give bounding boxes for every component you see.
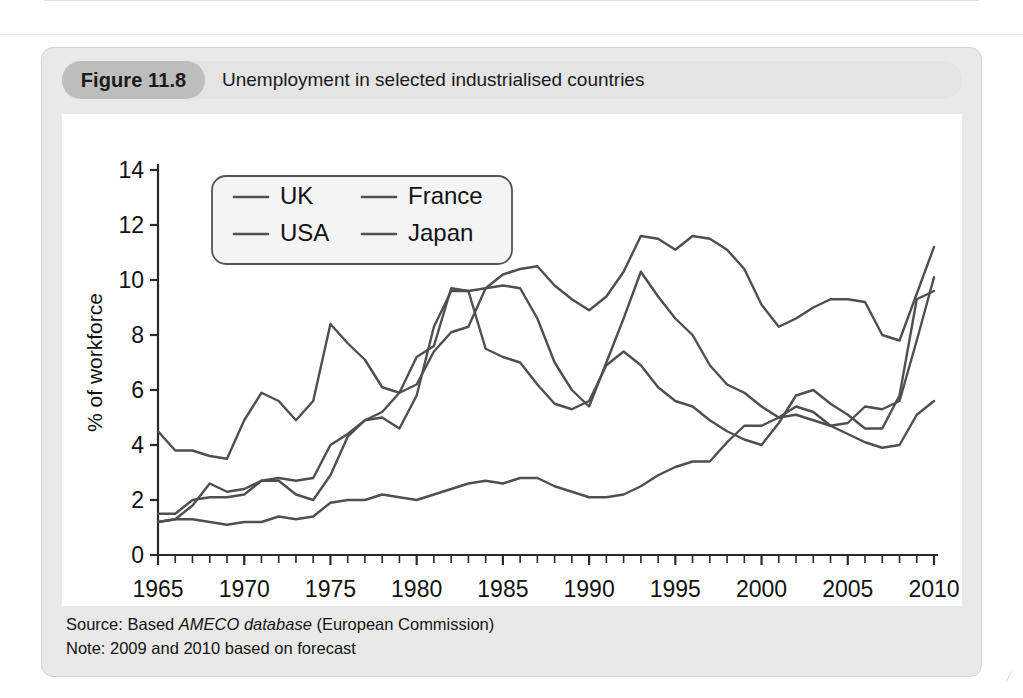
x-tick-label: 2010 — [908, 576, 959, 602]
figure-footer: Source: Based AMECO database (European C… — [66, 613, 946, 661]
y-tick-label: 0 — [131, 542, 144, 568]
y-tick-label: 4 — [131, 432, 144, 458]
legend-label-uk: UK — [280, 182, 313, 209]
legend-label-france: France — [408, 182, 483, 209]
source-prefix: Source: Based — [66, 615, 179, 633]
source-italic: AMECO database — [179, 615, 312, 633]
x-tick-label: 1965 — [132, 576, 183, 602]
legend-label-usa: USA — [280, 219, 329, 246]
figure-note-line: Note: 2009 and 2010 based on forecast — [66, 637, 946, 661]
y-axis-title: % of workforce — [83, 293, 106, 432]
x-tick-label: 1995 — [650, 576, 701, 602]
page-edge-rule — [44, 0, 979, 1]
series-line-japan — [158, 401, 934, 525]
x-tick-label: 1970 — [219, 576, 270, 602]
x-tick-label: 1985 — [477, 576, 528, 602]
y-tick-label: 14 — [118, 157, 144, 183]
y-tick-label: 10 — [118, 267, 144, 293]
source-suffix: (European Commission) — [312, 615, 494, 633]
y-tick-label: 8 — [131, 322, 144, 348]
figure-number-badge: Figure 11.8 — [62, 61, 205, 99]
series-line-usa — [158, 288, 934, 459]
page-top-edge — [0, 0, 1023, 35]
figure-caption-bar: Figure 11.8 Unemployment in selected ind… — [62, 61, 962, 99]
x-tick-label: 1975 — [305, 576, 356, 602]
series-line-france — [158, 236, 934, 522]
unemployment-line-chart: 0246810121419651970197519801985199019952… — [62, 114, 962, 606]
y-tick-label: 12 — [118, 212, 144, 238]
y-tick-label: 6 — [131, 377, 144, 403]
page-corner-scrap — [1001, 668, 1023, 698]
x-tick-label: 2005 — [822, 576, 873, 602]
plot-area-card: 0246810121419651970197519801985199019952… — [62, 114, 962, 606]
x-tick-label: 2000 — [736, 576, 787, 602]
y-tick-label: 2 — [131, 487, 144, 513]
x-tick-label: 1980 — [391, 576, 442, 602]
figure-title: Unemployment in selected industrialised … — [222, 61, 644, 99]
figure-panel: Figure 11.8 Unemployment in selected ind… — [41, 47, 982, 677]
legend-label-japan: Japan — [408, 219, 473, 246]
figure-source-line: Source: Based AMECO database (European C… — [66, 613, 946, 637]
x-tick-label: 1990 — [564, 576, 615, 602]
